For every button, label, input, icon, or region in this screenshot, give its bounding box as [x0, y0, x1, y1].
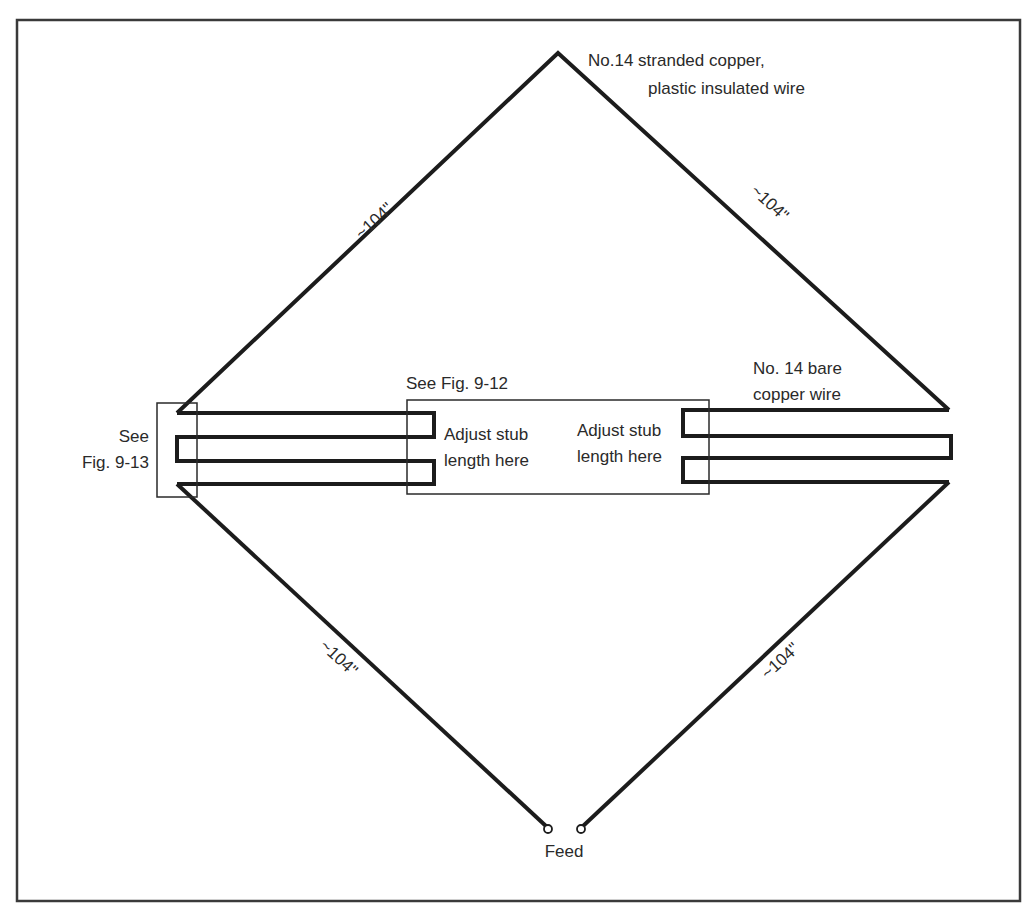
top-wire-label-line1: No.14 stranded copper, — [588, 51, 765, 70]
adjust-stub-left-line2: length here — [444, 451, 529, 470]
see-fig-9-13-line2: Fig. 9-13 — [82, 453, 149, 472]
lower-right-wire — [582, 482, 949, 827]
adjust-stub-left-line1: Adjust stub — [444, 425, 528, 444]
bare-wire-label-line1: No. 14 bare — [753, 359, 842, 378]
left-stub-bare-wire — [177, 413, 434, 484]
bare-wire-label-line2: copper wire — [753, 385, 841, 404]
see-fig-9-12-label: See Fig. 9-12 — [406, 374, 508, 393]
feed-terminal-right — [577, 825, 585, 833]
dimension-lower-left: ~104" — [316, 636, 361, 680]
adjust-stub-right-line2: length here — [577, 447, 662, 466]
antenna-diagram: No.14 stranded copper, plastic insulated… — [0, 0, 1034, 908]
lower-left-wire — [177, 484, 547, 827]
right-stub-bare-wire — [683, 410, 951, 482]
feed-label: Feed — [545, 842, 584, 861]
adjust-stub-right-line1: Adjust stub — [577, 421, 661, 440]
top-wire-label-line2: plastic insulated wire — [648, 79, 805, 98]
dimension-upper-left: ~104" — [352, 199, 397, 243]
feed-terminal-left — [544, 825, 552, 833]
fig-9-12-callout-box — [407, 400, 709, 494]
dimension-upper-right: ~104" — [747, 181, 792, 225]
dimension-lower-right: ~104" — [758, 639, 803, 683]
see-fig-9-13-line1: See — [119, 427, 149, 446]
